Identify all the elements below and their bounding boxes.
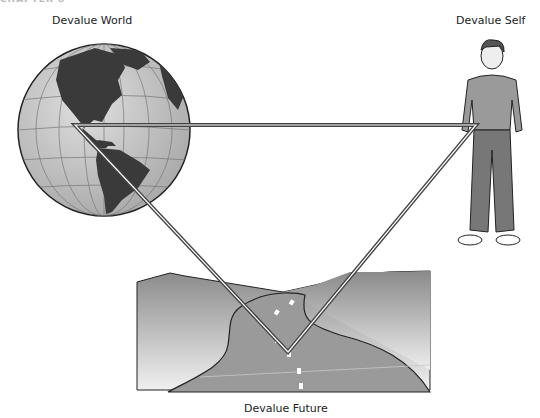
person-icon	[458, 40, 522, 245]
road-icon	[137, 271, 430, 392]
globe-icon	[18, 44, 190, 216]
label-devalue-future: Devalue Future	[244, 402, 328, 415]
diagram-canvas	[0, 0, 540, 418]
label-devalue-world: Devalue World	[52, 14, 132, 27]
label-devalue-self: Devalue Self	[456, 14, 525, 27]
